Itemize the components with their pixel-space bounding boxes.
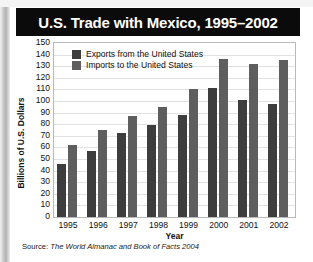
x-tick-label: 2002 [269,220,288,230]
bar-imports [189,89,198,217]
legend-label-exports: Exports from the United States [86,50,203,59]
chart-title: U.S. Trade with Mexico, 1995–2002 [38,14,277,31]
bar-imports [279,60,288,217]
bar-imports [219,59,228,217]
legend-label-imports: Imports to the United States [86,61,193,70]
y-tick-label: 30 [40,177,50,186]
y-tick-label: 40 [40,165,50,174]
bar-imports [68,145,77,217]
y-tick-label: 50 [40,154,50,163]
bar-exports [178,115,187,217]
bar-exports [117,133,126,217]
y-tick-label: 150 [36,38,50,47]
y-tick-label: 120 [36,73,50,82]
bar-imports [98,130,107,217]
y-tick-label: 80 [40,119,50,128]
legend-item-imports: Imports to the United States [72,61,203,70]
chart-title-bar: U.S. Trade with Mexico, 1995–2002 [16,8,300,36]
page-edge-shadow [0,0,10,262]
y-axis-label-text: Billions of U.S. Dollars [16,97,26,188]
page-edge-top [0,0,313,7]
bar-group [235,43,265,217]
bar-exports [238,100,247,217]
y-tick-label: 0 [45,212,50,221]
chart-area: Billions of U.S. Dollars 150140130120110… [16,40,300,236]
y-tick-label: 140 [36,49,50,58]
legend-swatch-exports [72,50,81,59]
bar-group [265,43,295,217]
chart-figure: U.S. Trade with Mexico, 1995–2002 Billio… [0,0,313,262]
y-tick-label: 10 [40,200,50,209]
bar-imports [128,116,137,217]
x-tick-label: 2001 [239,220,258,230]
legend-swatch-imports [72,61,81,70]
y-tick-label: 60 [40,142,50,151]
y-axis-label: Billions of U.S. Dollars [14,68,28,218]
x-tick-label: 2000 [209,220,228,230]
x-tick-label: 1995 [59,220,78,230]
bar-imports [249,64,258,217]
bar-exports [87,151,96,217]
y-axis-ticks: 1501401301201101009080706050403020100 [28,40,50,220]
bar-exports [208,88,217,217]
bar-group [205,43,235,217]
x-tick-label: 1999 [179,220,198,230]
y-tick-label: 110 [36,84,50,93]
x-tick-label: 1997 [119,220,138,230]
bar-exports [147,125,156,217]
x-tick-label: 1996 [89,220,108,230]
y-tick-label: 70 [40,131,50,140]
legend-item-exports: Exports from the United States [72,50,203,59]
chart-legend: Exports from the United States Imports t… [72,50,203,72]
x-axis-label: Year [53,231,296,241]
bar-exports [268,104,277,217]
y-tick-label: 100 [36,96,50,105]
bar-exports [57,164,66,217]
y-tick-label: 90 [40,107,50,116]
plot-area: Exports from the United States Imports t… [53,42,296,218]
source-note: Source: The World Almanac and Book of Fa… [22,242,199,251]
x-tick-label: 1998 [149,220,168,230]
bar-imports [158,107,167,217]
y-tick-label: 130 [36,61,50,70]
y-tick-label: 20 [40,189,50,198]
source-title: The World Almanac and Book of Facts 2004 [50,242,199,251]
source-prefix: Source: [22,242,50,251]
